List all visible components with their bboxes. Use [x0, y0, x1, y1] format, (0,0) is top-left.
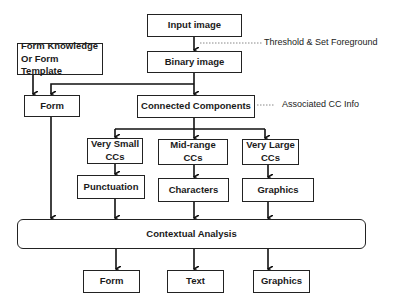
- output-text-label: Text: [186, 275, 205, 288]
- very-large-ccs-node: Very Large CCs: [242, 139, 299, 165]
- binary-image-label: Binary image: [165, 56, 225, 69]
- form-node: Form: [24, 95, 80, 117]
- mid-range-ccs-label: Mid-range CCs: [170, 139, 215, 165]
- output-graphics-label: Graphics: [261, 275, 302, 288]
- output-form-node: Form: [83, 270, 140, 293]
- form-knowledge-label: Form Knowledge Or Form Template: [21, 40, 102, 78]
- form-label: Form: [40, 100, 64, 113]
- graphics-label: Graphics: [257, 184, 298, 197]
- binary-image-node: Binary image: [147, 51, 242, 73]
- connected-components-label: Connected Components: [141, 100, 251, 113]
- very-small-ccs-label: Very Small CCs: [91, 138, 139, 164]
- threshold-annotation: Threshold & Set Foreground: [264, 37, 378, 47]
- associated-cc-annotation: Associated CC Info: [282, 99, 359, 109]
- graphics-node: Graphics: [242, 178, 314, 202]
- output-text-node: Text: [167, 270, 224, 293]
- contextual-analysis-node: Contextual Analysis: [17, 219, 366, 249]
- output-form-label: Form: [100, 275, 124, 288]
- form-knowledge-node: Form Knowledge Or Form Template: [17, 43, 103, 75]
- output-graphics-node: Graphics: [253, 270, 310, 293]
- punctuation-node: Punctuation: [77, 175, 145, 199]
- mid-range-ccs-node: Mid-range CCs: [158, 139, 228, 165]
- contextual-analysis-label: Contextual Analysis: [146, 228, 236, 241]
- connected-components-node: Connected Components: [137, 95, 255, 118]
- punctuation-label: Punctuation: [84, 181, 139, 194]
- very-small-ccs-node: Very Small CCs: [87, 138, 143, 164]
- very-large-ccs-label: Very Large CCs: [246, 139, 295, 165]
- characters-label: Characters: [169, 184, 219, 197]
- input-image-node: Input image: [147, 14, 242, 37]
- characters-node: Characters: [158, 178, 229, 202]
- input-image-label: Input image: [168, 19, 221, 32]
